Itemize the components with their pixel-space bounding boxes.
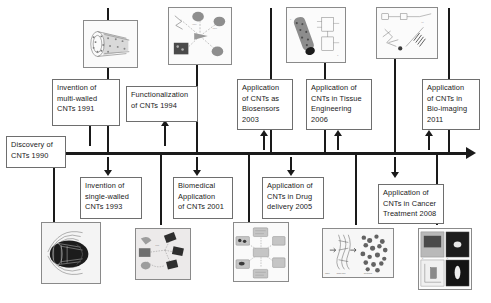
svg-text:label: label xyxy=(192,23,197,25)
thumbnail-drug-delivery-cycle-schematic[interactable] xyxy=(233,222,289,282)
milestone-label-biosensors-2003[interactable]: Application of CNTs as Biosensors 2003 xyxy=(237,79,293,130)
connector-1993 xyxy=(107,157,109,171)
connector-1993-arrow-icon xyxy=(104,170,112,176)
cnt-history-timeline-figure: Invention of multi-walled CNTs 1991 Func… xyxy=(0,0,491,303)
biomedical-application-icon: CNT xyxy=(136,229,190,279)
milestone-label-tissue-engineering-2006[interactable]: Application of CNTs in Tissue Engineerin… xyxy=(306,79,372,130)
svg-text:Scaffold: Scaffold xyxy=(364,272,373,274)
connector-1994 xyxy=(164,126,166,146)
connector-2006 xyxy=(337,136,339,150)
svg-text:CNT-Gel: CNT-Gel xyxy=(337,272,346,274)
thumbnail-biomedical-application-schematic[interactable]: CNT xyxy=(135,228,191,280)
connector-2001-arrow-icon xyxy=(193,170,201,176)
thumbnail-single-walled-nanotube-illustration[interactable] xyxy=(41,222,101,284)
svg-text:b: b xyxy=(447,257,448,259)
drug-delivery-cycle-icon xyxy=(234,223,288,281)
milestone-label-bio-imaging-2011[interactable]: Application of CNTs in Bio-imaging 2011 xyxy=(422,79,480,130)
connector-2011-arrow-icon xyxy=(425,130,433,136)
stem-below-cancer xyxy=(355,153,357,225)
timeline-axis xyxy=(8,152,470,155)
single-walled-nanotube-icon xyxy=(42,223,100,283)
svg-text:label: label xyxy=(213,27,218,29)
tissue-engineering-icon: ab xyxy=(287,8,345,62)
thumbnail-tissue-engineering-micrograph[interactable]: ab xyxy=(286,7,346,63)
thumbnail-bio-imaging-panel-micrographs[interactable]: ab xyxy=(418,228,472,290)
svg-text:CNT: CNT xyxy=(325,272,330,274)
milestone-label-single-walled-1993[interactable]: Invention of single-walled CNTs 1993 xyxy=(80,177,142,219)
thumbnail-functionalization-schematic[interactable]: labellabel xyxy=(168,7,232,65)
milestone-label-functionalization-1994[interactable]: Functionalization of CNTs 1994 xyxy=(126,86,198,122)
bio-imaging-panel-icon: ab xyxy=(419,229,471,289)
milestone-label-discovery-1990[interactable]: Discovery of CNTs 1990 xyxy=(6,136,66,168)
connector-2003 xyxy=(263,136,265,150)
milestone-label-drug-delivery-2005[interactable]: Application of CNTs in Drug delivery 200… xyxy=(262,177,324,219)
scaffold-formation-icon: CNTCNT-GelScaffold xyxy=(323,229,393,277)
functionalization-icon: labellabel xyxy=(169,8,231,64)
milestone-label-cancer-treatment-2008[interactable]: Application of CNTs in Cancer Treatment … xyxy=(378,184,444,224)
connector-2003-arrow-icon xyxy=(260,130,268,136)
cancer-therapy-icon: txt xyxy=(377,8,437,58)
connector-2005-arrow-icon xyxy=(287,170,295,176)
connector-2006-arrow-icon xyxy=(334,130,342,136)
thumbnail-cancer-therapy-schematic[interactable]: txt xyxy=(376,7,438,59)
connector-1991 xyxy=(89,126,91,146)
connector-2008-arrow-icon xyxy=(391,172,399,178)
svg-text:b: b xyxy=(337,54,338,56)
milestone-label-biomedical-2001[interactable]: Biomedical Application of CNTs 2001 xyxy=(173,177,233,219)
milestone-label-multi-walled-1991[interactable]: Invention of multi-walled CNTs 1991 xyxy=(52,79,120,126)
stem-below-biomedical xyxy=(160,153,162,225)
connector-2008 xyxy=(394,157,396,173)
connector-2011 xyxy=(428,136,430,150)
timeline-arrow-icon xyxy=(466,147,476,159)
thumbnail-multi-walled-nanotube-illustration[interactable] xyxy=(83,20,138,68)
stem-below-drug xyxy=(248,153,250,225)
multi-walled-nanotube-icon xyxy=(84,21,137,67)
connector-2005 xyxy=(290,157,292,171)
connector-2001 xyxy=(196,157,198,171)
thumbnail-scaffold-formation-diagram[interactable]: CNTCNT-GelScaffold xyxy=(322,228,394,278)
